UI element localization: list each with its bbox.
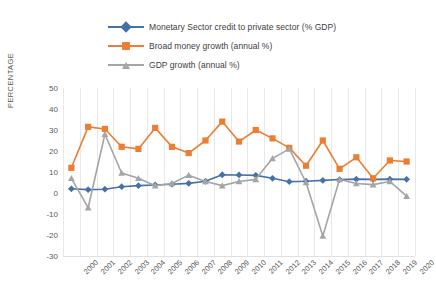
data-point-marker [269, 135, 275, 141]
x-axis-tick: 2006 [183, 258, 201, 276]
y-axis-tick-labels: 50403020100-10-20-30 [10, 88, 58, 256]
data-point-marker [303, 163, 309, 169]
data-point-marker [85, 204, 92, 210]
data-point-marker [236, 172, 243, 179]
legend-item[interactable]: GDP growth (annual %) [108, 58, 336, 72]
x-axis-tick: 2003 [133, 258, 151, 276]
x-axis-tick: 2011 [266, 258, 284, 276]
data-point-marker [102, 186, 109, 193]
data-point-marker [118, 183, 125, 190]
data-point-marker [186, 150, 192, 156]
legend-item[interactable]: Broad money growth (annual %) [108, 39, 336, 53]
x-axis-tick: 2009 [233, 258, 251, 276]
legend-line-square-icon [108, 40, 144, 52]
data-point-marker [404, 158, 410, 164]
data-point-marker [236, 138, 242, 144]
data-point-marker [85, 186, 92, 193]
y-axis-tick: 30 [12, 126, 58, 135]
data-point-marker [370, 175, 376, 181]
data-point-marker [169, 144, 175, 150]
x-axis-tick: 2020 [417, 258, 435, 276]
data-point-marker [387, 157, 393, 163]
data-point-marker [85, 124, 91, 130]
data-point-marker [185, 172, 192, 178]
data-point-marker [135, 182, 142, 189]
plot-area [63, 88, 415, 256]
data-point-marker [286, 178, 293, 185]
data-point-marker [336, 166, 342, 172]
x-axis-tick: 2004 [149, 258, 167, 276]
x-axis-tick: 2008 [216, 258, 234, 276]
x-axis-tick: 2017 [367, 258, 385, 276]
x-axis-tick-labels: 2000200120022003200420052006200720082009… [63, 258, 415, 288]
data-point-marker [118, 170, 125, 176]
x-axis-tick: 2007 [200, 258, 218, 276]
data-point-marker [320, 137, 326, 143]
legend-item-label: GDP growth (annual %) [149, 60, 240, 70]
data-point-marker [319, 233, 326, 239]
y-axis-tick: 0 [12, 189, 58, 198]
x-axis-tick: 2010 [250, 258, 268, 276]
data-point-marker [269, 175, 276, 182]
y-axis-tick: 20 [12, 147, 58, 156]
x-axis-tick: 2015 [334, 258, 352, 276]
data-point-marker [353, 154, 359, 160]
series-layer [63, 88, 415, 256]
data-point-marker [253, 127, 259, 133]
y-axis-tick: -10 [12, 210, 58, 219]
data-point-marker [185, 180, 192, 187]
data-point-marker [68, 185, 75, 192]
x-axis-tick: 2014 [317, 258, 335, 276]
y-axis-tick: -30 [12, 252, 58, 261]
x-axis-tick: 2013 [300, 258, 318, 276]
data-point-marker [403, 176, 410, 183]
y-axis-tick: 50 [12, 84, 58, 93]
data-point-marker [119, 144, 125, 150]
gridline [415, 88, 416, 256]
legend-item-label: Monetary Sector credit to private sector… [149, 22, 336, 32]
y-axis-tick: 40 [12, 105, 58, 114]
x-axis-tick: 2005 [166, 258, 184, 276]
x-axis-tick: 2012 [283, 258, 301, 276]
chart-legend: Monetary Sector credit to private sector… [108, 20, 336, 72]
data-point-marker [319, 177, 326, 184]
legend-item[interactable]: Monetary Sector credit to private sector… [108, 20, 336, 34]
x-axis-tick: 2019 [401, 258, 419, 276]
data-point-marker [202, 137, 208, 143]
legend-line-triangle-icon [108, 59, 144, 71]
y-axis-tick: -20 [12, 231, 58, 240]
x-axis-tick: 2002 [116, 258, 134, 276]
data-point-marker [219, 171, 226, 178]
legend-line-diamond-icon [108, 21, 144, 33]
x-axis-tick: 2016 [350, 258, 368, 276]
data-point-marker [68, 165, 74, 171]
x-axis-tick: 2001 [99, 258, 117, 276]
legend-item-label: Broad money growth (annual %) [149, 41, 272, 51]
data-point-marker [269, 155, 276, 161]
x-axis-tick: 2000 [82, 258, 100, 276]
data-point-marker [219, 119, 225, 125]
data-point-marker [135, 146, 141, 152]
y-axis-tick: 10 [12, 168, 58, 177]
data-point-marker [68, 175, 75, 181]
x-axis-tick: 2018 [384, 258, 402, 276]
data-point-marker [152, 125, 158, 131]
